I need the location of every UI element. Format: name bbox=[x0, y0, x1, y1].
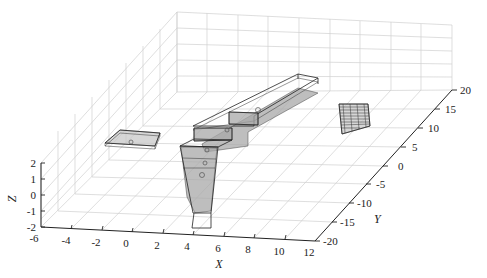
x-tick: 10 bbox=[274, 245, 286, 257]
y-tick: 0 bbox=[398, 160, 404, 172]
left-wall-grid bbox=[41, 12, 177, 227]
z-tick: -1 bbox=[27, 205, 36, 217]
z-tick: 2 bbox=[31, 157, 37, 169]
z-tick: 0 bbox=[31, 189, 37, 201]
y-tick: 5 bbox=[412, 141, 418, 153]
y-tick: -5 bbox=[376, 178, 386, 190]
x-tick: 4 bbox=[184, 240, 190, 252]
y-tick: -20 bbox=[323, 235, 338, 247]
x-tick: 8 bbox=[245, 243, 251, 255]
z-axis-label: Z bbox=[5, 195, 19, 202]
y-tick: -15 bbox=[340, 216, 355, 228]
x-tick: -2 bbox=[91, 236, 100, 248]
y-tick: -10 bbox=[357, 197, 372, 209]
y-tick: 20 bbox=[460, 84, 472, 96]
y-tick: 15 bbox=[445, 103, 457, 115]
y-axis-label: Y bbox=[374, 212, 382, 226]
right-cylinder bbox=[339, 104, 370, 134]
main-beam bbox=[180, 74, 318, 228]
x-tick-labels: -6 -4 -2 0 2 4 6 8 10 12 bbox=[29, 232, 314, 258]
x-tick: 0 bbox=[123, 237, 129, 249]
x-tick: 6 bbox=[215, 242, 221, 254]
x-axis-label: X bbox=[214, 257, 223, 271]
z-tick: 1 bbox=[31, 173, 37, 185]
x-tick: 12 bbox=[304, 246, 315, 258]
3d-plot: 2 1 0 -1 -2 Z -6 -4 -2 0 2 4 6 8 10 12 X… bbox=[0, 0, 487, 278]
left-flat-panel bbox=[105, 130, 160, 149]
x-tick: -4 bbox=[61, 234, 71, 246]
z-tick-labels: 2 1 0 -1 -2 bbox=[27, 157, 37, 233]
x-tick: 2 bbox=[154, 239, 160, 251]
y-tick: 10 bbox=[428, 122, 440, 134]
x-tick: -6 bbox=[29, 232, 39, 244]
